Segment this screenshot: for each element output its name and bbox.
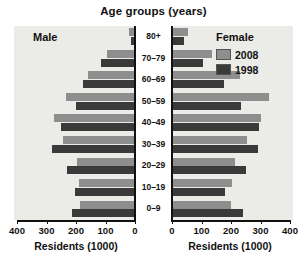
age-group-label-80+: 80+ — [135, 26, 172, 48]
bar-female-1998-80+ — [172, 37, 184, 45]
legend-item-2008: 2008 — [216, 47, 258, 62]
bar-male-2008-20–29 — [77, 158, 135, 166]
bar-female-2008-50–59 — [172, 93, 269, 101]
female-heading: Female — [216, 31, 254, 43]
tick-label-female-0: 0 — [159, 225, 185, 236]
bar-row — [17, 134, 135, 156]
age-group-axis: 80+70–7960–6950–5940–4930–3920–2910–190–… — [135, 26, 172, 220]
tick-label-male-200: 200 — [63, 225, 89, 236]
axis-tick — [135, 220, 136, 224]
bar-row — [17, 177, 135, 199]
legend-item-1998: 1998 — [216, 62, 258, 77]
male-value-axis-line — [134, 26, 136, 220]
bar-female-1998-30–39 — [172, 145, 258, 153]
bar-male-1998-30–39 — [52, 145, 135, 153]
tick-label-female-400: 400 — [277, 225, 303, 236]
female-value-axis-line — [171, 26, 173, 220]
tick-label-female-300: 300 — [248, 225, 274, 236]
axis-tick — [76, 220, 77, 224]
female-axis-title: Residents (1000) — [165, 240, 295, 252]
axis-tick — [290, 220, 291, 224]
bar-male-2008-50–59 — [66, 93, 135, 101]
bar-row — [172, 112, 290, 134]
bar-row — [17, 48, 135, 70]
bar-female-1998-20–29 — [172, 166, 246, 174]
tick-label-female-100: 100 — [189, 225, 215, 236]
age-group-label-70–79: 70–79 — [135, 48, 172, 70]
bar-female-2008-20–29 — [172, 158, 235, 166]
population-pyramid-chart: Age groups (years) 80+70–7960–6950–5940–… — [0, 0, 307, 270]
age-group-label-40–49: 40–49 — [135, 112, 172, 134]
tick-label-male-100: 100 — [93, 225, 119, 236]
bar-female-1998-70–79 — [172, 59, 203, 67]
bar-male-2008-60–69 — [88, 71, 135, 79]
bar-male-1998-0–9 — [72, 209, 135, 217]
legend-label-1998: 1998 — [235, 64, 258, 76]
bar-row — [172, 134, 290, 156]
bar-male-2008-70–79 — [107, 50, 135, 58]
tick-label-male-400: 400 — [4, 225, 30, 236]
legend-label-2008: 2008 — [235, 49, 258, 61]
axis-tick — [106, 220, 107, 224]
bar-female-2008-40–49 — [172, 114, 261, 122]
axis-tick — [231, 220, 232, 224]
bar-female-1998-50–59 — [172, 102, 241, 110]
age-group-label-10–19: 10–19 — [135, 177, 172, 199]
bar-male-2008-40–49 — [54, 114, 135, 122]
bar-male-1998-10–19 — [75, 188, 135, 196]
axis-tick — [172, 220, 173, 224]
bar-male-1998-40–49 — [61, 123, 135, 131]
age-group-label-30–39: 30–39 — [135, 134, 172, 156]
bar-male-1998-70–79 — [101, 59, 135, 67]
bar-male-2008-0–9 — [80, 201, 135, 209]
bar-row — [172, 177, 290, 199]
legend-swatch-2008-icon — [216, 49, 231, 60]
bar-male-1998-60–69 — [83, 80, 135, 88]
bar-male-2008-30–39 — [63, 136, 135, 144]
male-heading: Male — [33, 31, 57, 43]
bar-row — [17, 155, 135, 177]
bar-male-2008-10–19 — [79, 179, 135, 187]
bar-female-1998-40–49 — [172, 123, 259, 131]
bar-row — [172, 155, 290, 177]
tick-label-female-200: 200 — [218, 225, 244, 236]
bar-female-1998-10–19 — [172, 188, 225, 196]
axis-tick — [202, 220, 203, 224]
axis-tick — [17, 220, 18, 224]
bar-female-2008-70–79 — [172, 50, 212, 58]
bar-female-2008-80+ — [172, 28, 188, 36]
bar-female-1998-60–69 — [172, 80, 224, 88]
bar-row — [17, 198, 135, 220]
chart-title: Age groups (years) — [0, 5, 307, 17]
legend-swatch-1998-icon — [216, 64, 231, 75]
bar-female-2008-0–9 — [172, 201, 231, 209]
bar-row — [172, 91, 290, 113]
age-group-label-20–29: 20–29 — [135, 155, 172, 177]
chart-legend: 2008 1998 — [216, 47, 258, 77]
axis-tick — [261, 220, 262, 224]
male-axis-title: Residents (1000) — [11, 240, 141, 252]
tick-label-male-300: 300 — [34, 225, 60, 236]
male-panel — [17, 26, 135, 220]
bar-row — [172, 198, 290, 220]
age-group-label-0–9: 0–9 — [135, 198, 172, 220]
tick-label-male-0: 0 — [122, 225, 148, 236]
bar-female-2008-10–19 — [172, 179, 232, 187]
bar-row — [17, 69, 135, 91]
bar-male-1998-50–59 — [76, 102, 135, 110]
bar-row — [17, 91, 135, 113]
bar-male-1998-20–29 — [67, 166, 135, 174]
age-group-label-50–59: 50–59 — [135, 91, 172, 113]
age-group-label-60–69: 60–69 — [135, 69, 172, 91]
bar-female-1998-0–9 — [172, 209, 243, 217]
bar-female-2008-30–39 — [172, 136, 247, 144]
bar-row — [17, 112, 135, 134]
axis-tick — [47, 220, 48, 224]
